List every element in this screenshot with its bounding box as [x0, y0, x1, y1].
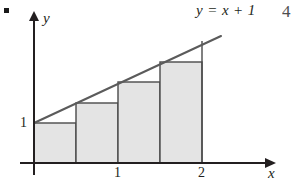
riemann-rectangles	[34, 62, 202, 163]
riemann-bar	[160, 62, 202, 163]
riemann-sum-figure: y = x + 1 y x 1 1 2 4	[0, 0, 294, 185]
y-tick-label-1: 1	[20, 116, 27, 130]
y-axis-label: y	[43, 11, 50, 26]
figure-canvas	[0, 0, 294, 185]
riemann-bar	[34, 123, 76, 163]
x-tick-label-2: 2	[198, 166, 205, 180]
riemann-bar	[76, 103, 118, 163]
edge-cropped-glyph: 4	[282, 2, 294, 24]
riemann-bar	[118, 82, 160, 163]
y-axis-arrow-icon	[29, 11, 39, 21]
x-tick-label-1: 1	[114, 166, 121, 180]
x-axis-label: x	[268, 166, 275, 181]
function-equation-label: y = x + 1	[196, 3, 256, 18]
